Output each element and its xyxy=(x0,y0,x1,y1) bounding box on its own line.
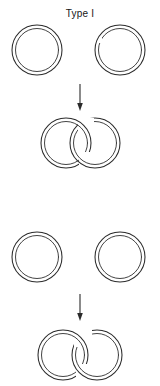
type-i-reactant-ring-right xyxy=(95,25,145,75)
type-ii-reactant-ring-right xyxy=(95,232,145,282)
type-i-reaction-arrow xyxy=(77,84,83,111)
type-i-reactant-ring-left xyxy=(12,25,62,75)
catenane-figure: Type I Type II xyxy=(0,0,160,386)
type-ii-product-catenane xyxy=(38,330,122,380)
diagram-artwork xyxy=(0,0,160,386)
type-ii-product-ring-right xyxy=(72,330,122,380)
type-ii-reaction-arrow xyxy=(77,294,83,321)
type-ii-reactant-ring-left xyxy=(12,232,62,282)
type-i-product-ring-right xyxy=(70,118,120,168)
type-i-product-ring-left xyxy=(41,118,91,168)
type-i-product-catenane xyxy=(41,118,120,168)
type-ii-product-ring-left xyxy=(38,330,88,380)
